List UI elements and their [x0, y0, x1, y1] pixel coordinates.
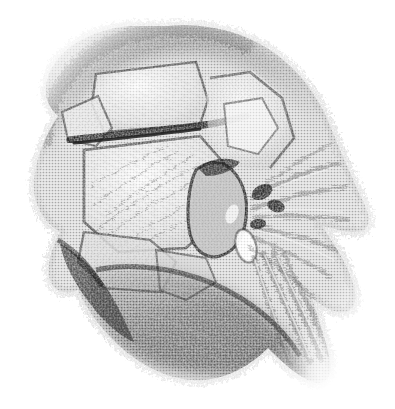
- specimen-group: [0, 0, 395, 409]
- edge-vignette: [0, 0, 395, 409]
- anatomical-figure: [0, 0, 395, 409]
- engraving-svg: [0, 0, 395, 409]
